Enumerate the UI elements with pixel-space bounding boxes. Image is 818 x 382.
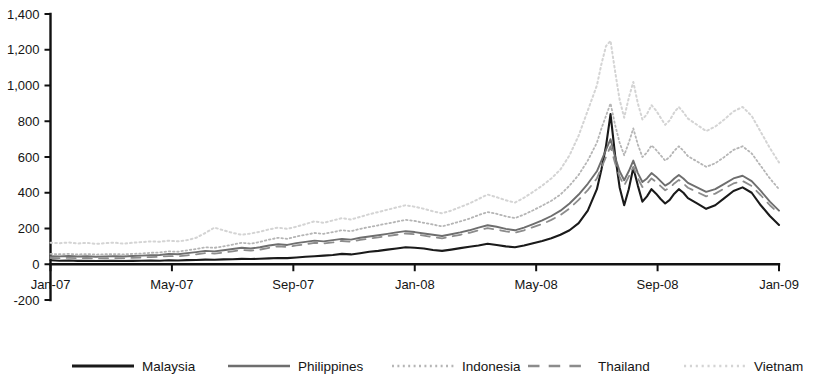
series-line-malaysia xyxy=(51,114,780,261)
x-tick-label: Sep-07 xyxy=(272,277,314,292)
y-tick-label: 1,400 xyxy=(7,7,40,22)
data-series-group xyxy=(51,41,780,261)
legend-label-malaysia: Malaysia xyxy=(142,359,196,374)
y-tick-label: -200 xyxy=(13,293,39,308)
legend-label-indonesia: Indonesia xyxy=(462,359,521,374)
x-tick-label: Jan-08 xyxy=(395,277,435,292)
chart-legend: MalaysiaPhilippinesIndonesiaThailandViet… xyxy=(72,359,803,374)
legend-label-philippines: Philippines xyxy=(298,359,364,374)
x-axis-tick-labels: Jan-07May-07Sep-07Jan-08May-08Sep-08Jan-… xyxy=(31,277,799,292)
legend-label-vietnam: Vietnam xyxy=(754,359,803,374)
line-chart: 1,4001,2001,0008006004002000-200 Jan-07M… xyxy=(0,0,818,382)
x-tick-label: May-07 xyxy=(150,277,193,292)
x-tick-label: May-08 xyxy=(514,277,557,292)
y-tick-label: 1,000 xyxy=(7,78,40,93)
chart-container: 1,4001,2001,0008006004002000-200 Jan-07M… xyxy=(0,0,818,382)
y-tick-label: 600 xyxy=(18,150,40,165)
legend-label-thailand: Thailand xyxy=(598,359,650,374)
y-axis-tick-labels: 1,4001,2001,0008006004002000-200 xyxy=(7,7,40,308)
y-tick-label: 800 xyxy=(18,114,40,129)
x-tick-label: Jan-09 xyxy=(759,277,799,292)
y-tick-label: 1,200 xyxy=(7,42,40,57)
x-tick-label: Sep-08 xyxy=(637,277,679,292)
y-tick-label: 200 xyxy=(18,221,40,236)
y-tick-label: 400 xyxy=(18,185,40,200)
y-tick-label: 0 xyxy=(32,257,39,272)
series-line-vietnam xyxy=(51,41,780,244)
